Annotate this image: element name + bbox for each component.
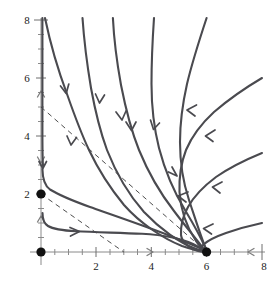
y-tick-label-2: 2 (24, 188, 30, 200)
trajectory-group (42, 18, 262, 252)
trajectory-2 (45, 18, 207, 252)
phase-portrait-figure: 2 4 6 8 2 4 6 8 (0, 0, 276, 291)
equilibrium-stable-node (202, 247, 211, 256)
flow-arrow-traj5-mid (169, 167, 178, 176)
equilibrium-y-axis-fixed-point (36, 189, 45, 198)
flow-arrow-traj8-mid (213, 182, 223, 193)
equilibrium-origin (36, 247, 45, 256)
flow-arrow-traj7-upper (206, 130, 216, 142)
trajectory-4 (113, 18, 207, 252)
flow-arrow-traj9-mid (204, 224, 214, 234)
x-tick-label-6: 6 (204, 260, 210, 272)
y-tick-label-8: 8 (24, 14, 30, 26)
lower-nullcline (41, 194, 124, 252)
x-tick-label-8: 8 (261, 260, 267, 272)
x-tick-label-4: 4 (149, 260, 155, 272)
flow-arrow-traj3-upper (96, 94, 105, 103)
trajectory-yaxis-descent (42, 18, 43, 166)
y-tick-label-4: 4 (24, 130, 30, 142)
y-tick-label-6: 6 (24, 72, 30, 84)
x-tick-label-2: 2 (93, 260, 99, 272)
phase-portrait-canvas: 2 4 6 8 2 4 6 8 (0, 0, 276, 291)
flow-arrow-traj6-upper (187, 105, 197, 116)
flow-arrow-traj4-upper (116, 111, 126, 120)
trajectory-9 (201, 223, 262, 252)
